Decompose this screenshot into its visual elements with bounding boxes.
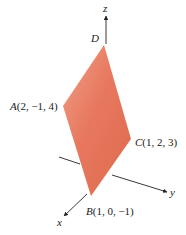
x-axis [64,194,87,216]
vertex-a-label: A(2, −1, 4) [9,100,58,113]
y-axis [112,175,167,192]
x-axis-label: x [56,216,62,228]
vertex-b-coords: (1, 0, −1) [93,205,134,218]
parallelogram-figure: z y x D A(2, −1, 4) C(1, 2, 3) B(1, 0, −… [0,0,186,235]
y-axis-label: y [169,186,175,198]
vertex-b-label: B(1, 0, −1) [86,205,134,218]
vertex-a-coords: (2, −1, 4) [17,100,58,113]
vertex-c-label: C(1, 2, 3) [135,136,178,149]
z-axis-label: z [102,2,108,14]
vertex-c-coords: (1, 2, 3) [142,136,177,149]
parallelogram-plane [63,45,131,196]
y-axis-back [59,157,80,164]
vertex-d-label: D [90,32,99,44]
